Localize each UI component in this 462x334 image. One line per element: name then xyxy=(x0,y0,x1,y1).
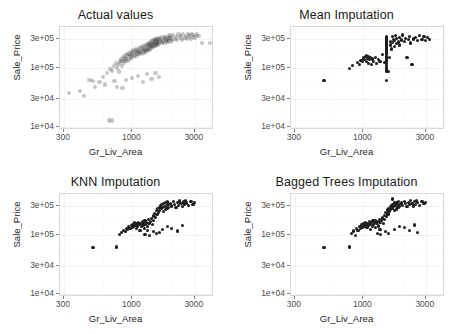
data-point xyxy=(387,232,390,235)
x-tick-mark xyxy=(63,296,64,299)
grid-line-x-minor xyxy=(403,194,404,295)
x-tick-mark xyxy=(425,129,426,132)
data-point xyxy=(136,74,140,78)
data-point xyxy=(381,53,384,56)
data-point xyxy=(149,77,153,81)
data-point xyxy=(101,75,105,79)
data-point xyxy=(146,225,149,228)
plot-panel xyxy=(59,26,213,129)
grid-line-y xyxy=(291,68,443,69)
data-point xyxy=(120,86,124,90)
data-point xyxy=(78,89,82,93)
plot-panel xyxy=(290,26,444,129)
data-point xyxy=(130,76,134,80)
data-point xyxy=(82,94,86,98)
grid-line-minor xyxy=(60,248,212,249)
x-tick-label: 300 xyxy=(43,299,83,309)
grid-line-x-minor xyxy=(334,194,335,295)
data-point xyxy=(138,229,141,232)
x-tick-label: 300 xyxy=(274,299,314,309)
facet-actual-values: Actual values Sale_Price Gr_Liv_Area 1e+… xyxy=(0,0,231,167)
data-point xyxy=(193,201,196,204)
data-point xyxy=(170,227,173,230)
grid-line-x xyxy=(195,194,196,295)
facet-mean-imputation: Mean Imputation Sale_Price Gr_Liv_Area 1… xyxy=(231,0,462,167)
x-axis-title: Gr_Liv_Area xyxy=(0,146,231,157)
grid-line-y xyxy=(60,294,212,295)
grid-line-minor xyxy=(60,81,212,82)
x-tick-label: 1000 xyxy=(342,299,382,309)
data-point xyxy=(387,70,390,73)
data-point xyxy=(97,80,101,84)
x-tick-label: 3000 xyxy=(405,132,445,142)
x-tick-mark xyxy=(194,129,195,132)
grid-line-y xyxy=(60,266,212,267)
grid-line-x xyxy=(426,194,427,295)
facet-title: KNN Imputation xyxy=(0,175,231,189)
data-point xyxy=(393,45,396,48)
data-point xyxy=(151,223,154,226)
data-point xyxy=(67,91,71,95)
data-point xyxy=(409,41,412,44)
data-point xyxy=(413,223,416,226)
grid-line-x-minor xyxy=(103,194,104,295)
x-tick-mark xyxy=(131,296,132,299)
data-point xyxy=(348,67,351,70)
data-point xyxy=(110,118,114,122)
x-tick-label: 300 xyxy=(274,132,314,142)
facet-title: Bagged Trees Imputation xyxy=(231,175,462,189)
x-tick-label: 300 xyxy=(43,132,83,142)
data-point xyxy=(196,34,200,38)
data-point xyxy=(398,43,401,46)
x-tick-mark xyxy=(194,296,195,299)
grid-line-x xyxy=(426,27,427,128)
plot-panel xyxy=(59,193,213,296)
data-point xyxy=(146,229,149,232)
grid-line-x xyxy=(295,27,296,128)
data-point xyxy=(377,224,380,227)
data-point xyxy=(91,79,95,83)
data-point xyxy=(403,40,406,43)
x-tick-mark xyxy=(362,129,363,132)
x-tick-mark xyxy=(63,129,64,132)
grid-line-minor xyxy=(60,109,212,110)
data-point xyxy=(390,47,393,50)
x-axis-title: Gr_Liv_Area xyxy=(231,146,462,157)
grid-line-x xyxy=(64,194,65,295)
x-tick-label: 1000 xyxy=(342,132,382,142)
grid-line-y xyxy=(291,127,443,128)
grid-line-x xyxy=(64,27,65,128)
grid-line-minor xyxy=(291,248,443,249)
data-point xyxy=(398,225,401,228)
data-point xyxy=(416,231,419,234)
grid-line-x xyxy=(195,27,196,128)
data-point xyxy=(154,216,157,219)
data-point xyxy=(391,197,394,200)
data-point xyxy=(418,34,421,37)
y-axis-title: Sale_Price xyxy=(11,185,22,265)
grid-line-y xyxy=(60,99,212,100)
grid-line-y xyxy=(291,235,443,236)
data-point xyxy=(166,225,169,228)
data-point xyxy=(110,69,114,73)
x-tick-mark xyxy=(294,129,295,132)
x-tick-mark xyxy=(294,296,295,299)
data-point xyxy=(382,222,385,225)
data-point xyxy=(383,218,386,221)
grid-line-minor xyxy=(291,50,443,51)
facet-grid: Actual values Sale_Price Gr_Liv_Area 1e+… xyxy=(0,0,462,334)
data-point xyxy=(157,75,161,79)
data-point xyxy=(351,64,354,67)
data-point xyxy=(408,35,411,38)
data-point xyxy=(143,233,146,236)
data-point xyxy=(161,228,164,231)
x-axis-title: Gr_Liv_Area xyxy=(231,313,462,324)
data-point xyxy=(112,79,116,83)
data-point xyxy=(93,85,97,89)
data-point xyxy=(348,245,351,248)
data-point xyxy=(322,246,325,249)
data-point xyxy=(403,226,406,229)
grid-line-x xyxy=(363,194,364,295)
data-point xyxy=(105,71,109,75)
data-point xyxy=(428,38,431,41)
